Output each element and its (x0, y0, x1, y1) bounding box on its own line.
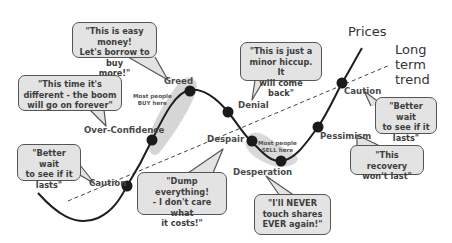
stage-label-desperation: Desperation (233, 167, 292, 177)
tail-desperation (266, 176, 295, 196)
bubble-desperation: "I'll NEVER touch shares EVER again!" (254, 194, 331, 235)
stage-label-denial: Denial (238, 100, 269, 110)
dot-despair (247, 136, 258, 147)
dot-denial (223, 107, 234, 118)
bubble-pessimism: "This recovery won't last" (350, 145, 424, 175)
prices-label: Prices (348, 24, 387, 39)
tail-greed (128, 57, 168, 80)
tail-over-confidence (90, 110, 106, 126)
bubble-caution-right: "Better wait to see if it lasts" (375, 97, 437, 134)
stage-label-greed: Greed (164, 76, 193, 86)
tail-despair (188, 149, 223, 173)
bubble-over-confidence: "This time it's different - the boom wil… (18, 75, 122, 111)
stage-label-despair: Despair (207, 134, 244, 144)
stage-label-caution-right: Caution (344, 86, 381, 96)
bubble-greed: "This is easy money! Let's borrow to buy… (72, 22, 157, 58)
dot-greed (185, 86, 196, 97)
bubble-despair: "Dump everything! - I don't care what it… (137, 172, 227, 215)
stage-label-pessimism: Pessimism (320, 131, 371, 141)
stage-label-caution-left: Caution (89, 178, 126, 188)
bubble-caution-left: "Better wait to see if it lasts" (17, 144, 81, 181)
bubble-denial: "This is just a minor hiccup. It will co… (240, 42, 322, 81)
note-buy-here: Most people BUY here (133, 93, 172, 107)
dot-over-confidence (147, 135, 158, 146)
note-sell-here: Most people SELL here (258, 140, 297, 154)
long-term-trend-label: Long term trend (395, 42, 430, 87)
stage-label-over-confidence: Over-Confidence (84, 125, 164, 135)
dot-desperation (276, 156, 287, 167)
